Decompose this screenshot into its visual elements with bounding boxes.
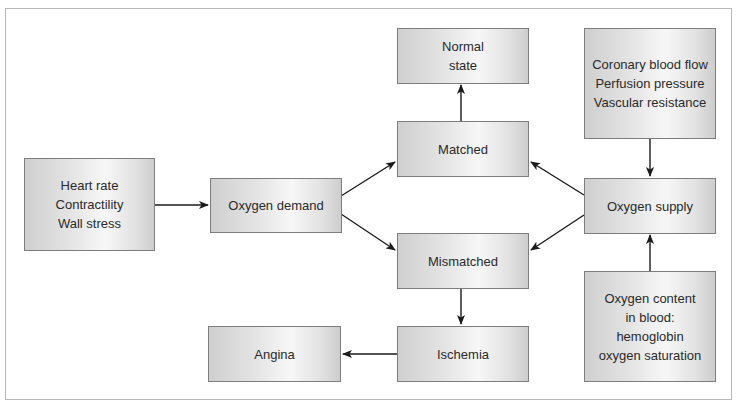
node-label: Oxygen content bbox=[604, 289, 695, 308]
node-normal-state: Normal state bbox=[397, 28, 529, 84]
node-label: state bbox=[449, 56, 477, 75]
node-label: Ischemia bbox=[437, 345, 489, 364]
node-label: Contractility bbox=[56, 195, 124, 214]
node-label: Heart rate bbox=[61, 176, 119, 195]
node-label: Matched bbox=[438, 140, 488, 159]
node-ischemia: Ischemia bbox=[397, 326, 529, 382]
node-oxygen-demand: Oxygen demand bbox=[210, 178, 342, 233]
node-oxygen-content: Oxygen content in blood: hemoglobin oxyg… bbox=[584, 271, 716, 382]
node-label: oxygen saturation bbox=[599, 346, 702, 365]
node-label: Coronary blood flow bbox=[592, 55, 708, 74]
node-label: Perfusion pressure bbox=[595, 74, 704, 93]
node-label: Mismatched bbox=[428, 252, 498, 271]
node-label: Oxygen demand bbox=[228, 196, 323, 215]
node-supply-determinants: Coronary blood flow Perfusion pressure V… bbox=[584, 28, 716, 139]
node-label: Oxygen supply bbox=[607, 197, 693, 216]
node-angina: Angina bbox=[208, 326, 341, 382]
node-label: Wall stress bbox=[58, 214, 121, 233]
node-label: hemoglobin bbox=[616, 327, 683, 346]
node-matched: Matched bbox=[397, 121, 529, 177]
node-label: Vascular resistance bbox=[594, 93, 706, 112]
node-label: Normal bbox=[442, 37, 484, 56]
node-label: in blood: bbox=[625, 308, 674, 327]
node-demand-determinants: Heart rate Contractility Wall stress bbox=[24, 158, 155, 251]
node-label: Angina bbox=[254, 345, 294, 364]
node-oxygen-supply: Oxygen supply bbox=[584, 178, 716, 234]
node-mismatched: Mismatched bbox=[397, 233, 529, 289]
